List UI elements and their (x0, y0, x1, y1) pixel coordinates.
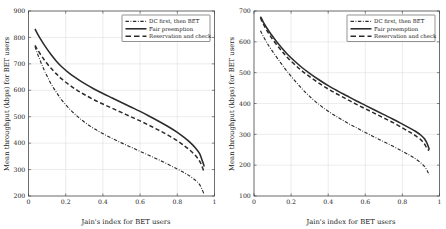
left-y-tick-label: 200 (13, 192, 25, 199)
left-y-tick-label: 600 (13, 86, 25, 93)
left-x-tick-label: 0 (27, 198, 31, 205)
left-x-tick-label: 0.4 (98, 198, 108, 205)
right-x-tick-label: 1 (438, 198, 442, 205)
left-x-tick-labels: 00.20.40.60.81 (27, 198, 217, 205)
right-x-tick-labels: 00.20.40.60.81 (252, 198, 442, 205)
right-y-tick-label: 200 (239, 161, 251, 168)
left-legend-label: DC first, then BET (149, 18, 200, 24)
left-x-tick-label: 0.8 (172, 198, 182, 205)
left-plot-svg: 200300400500600700800900 00.20.40.60.81 … (0, 0, 223, 229)
right-y-tick-labels: 100200300400500600700 (239, 7, 251, 199)
right-plot-svg: 100200300400500600700 00.20.40.60.81 DC … (223, 0, 446, 229)
right-x-tick-label: 0 (252, 198, 256, 205)
left-x-tick-label: 0.2 (61, 198, 71, 205)
left-legend-label: Reservation and check (149, 33, 212, 39)
left-y-tick-label: 800 (13, 34, 25, 41)
left-legend: DC first, then BETFair preemptionReserva… (122, 15, 212, 42)
left-legend-label: Fair preemption (149, 26, 194, 33)
right-y-tick-label: 600 (239, 38, 251, 45)
left-y-axis-label: Mean throughput (kbps) for BET users (3, 37, 11, 171)
right-legend: DC first, then BETFair preemptionReserva… (347, 15, 437, 42)
right-x-tick-label: 0.2 (286, 198, 296, 205)
right-x-tick-label: 0.4 (323, 198, 333, 205)
right-x-tick-label: 0.6 (360, 198, 370, 205)
right-y-tick-label: 300 (239, 131, 251, 138)
left-data-curves (35, 29, 204, 195)
left-x-axis-label: Jain's index for BET users (80, 218, 171, 226)
left-y-tick-label: 400 (13, 139, 25, 146)
two-panel-line-chart-figure: 200300400500600700800900 00.20.40.60.81 … (0, 0, 446, 229)
left-y-tick-label: 900 (13, 7, 25, 14)
left-y-tick-labels: 200300400500600700800900 (13, 7, 25, 199)
right-y-tick-label: 400 (239, 100, 251, 107)
left-curve-dashdot (35, 47, 204, 195)
right-x-axis-label: Jain's index for BET users (305, 218, 396, 226)
right-legend-label: Fair preemption (374, 26, 419, 33)
left-x-tick-label: 1 (213, 198, 217, 205)
left-y-tick-label: 500 (13, 113, 25, 120)
right-y-axis-label: Mean throughput (kbps) for BET users (228, 37, 236, 171)
left-x-tick-label: 0.6 (135, 198, 145, 205)
left-y-tick-label: 300 (13, 166, 25, 173)
right-legend-label: DC first, then BET (374, 18, 425, 24)
right-x-tick-label: 0.8 (397, 198, 407, 205)
right-y-tick-label: 700 (239, 7, 251, 14)
left-y-tick-label: 700 (13, 60, 25, 67)
right-legend-label: Reservation and check (374, 33, 437, 39)
right-y-tick-label: 100 (239, 192, 251, 199)
chart-panel-right: 100200300400500600700 00.20.40.60.81 DC … (223, 0, 446, 229)
right-y-tick-label: 500 (239, 69, 251, 76)
chart-panel-left: 200300400500600700800900 00.20.40.60.81 … (0, 0, 223, 229)
